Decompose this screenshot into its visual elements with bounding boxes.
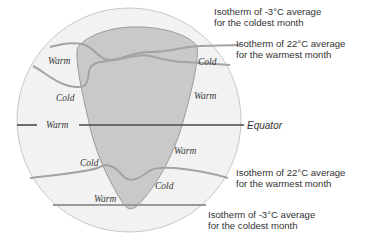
callout-south-coldest: Isotherm of -3°C average for the coldest… xyxy=(208,209,315,231)
callout-north-warmest-line2: for the warmest month xyxy=(236,49,345,60)
callout-north-coldest-line1: Isotherm of -3°C average xyxy=(214,6,321,17)
zone-label-south-warm-right: Warm xyxy=(174,146,196,156)
callout-south-warmest: Isotherm of 22°C average for the warmest… xyxy=(236,167,345,189)
callout-south-warmest-line1: Isotherm of 22°C average xyxy=(236,167,345,178)
callout-south-warmest-line2: for the warmest month xyxy=(236,178,345,189)
zone-label-north-cold-right: Cold xyxy=(198,57,217,67)
isotherm-globe-diagram: Warm Cold Cold Warm Warm Warm Cold Cold … xyxy=(0,0,376,244)
zone-label-north-warm-right: Warm xyxy=(194,91,216,101)
zone-label-equator-warm: Warm xyxy=(46,120,68,130)
callout-north-coldest: Isotherm of -3°C average for the coldest… xyxy=(214,6,321,28)
callout-south-coldest-line1: Isotherm of -3°C average xyxy=(208,209,315,220)
callout-south-coldest-line2: for the coldest month xyxy=(208,220,315,231)
zone-label-south-cold-right: Cold xyxy=(155,181,174,191)
callout-north-coldest-line2: for the coldest month xyxy=(214,17,321,28)
zone-label-north-cold-left: Cold xyxy=(56,93,75,103)
zone-label-north-warm-left: Warm xyxy=(48,56,70,66)
equator-label: Equator xyxy=(247,120,283,131)
callout-north-warmest: Isotherm of 22°C average for the warmest… xyxy=(236,38,345,60)
zone-label-south-cold-left: Cold xyxy=(80,158,99,168)
zone-label-south-warm-bottom: Warm xyxy=(94,194,116,204)
callout-north-warmest-line1: Isotherm of 22°C average xyxy=(236,38,345,49)
